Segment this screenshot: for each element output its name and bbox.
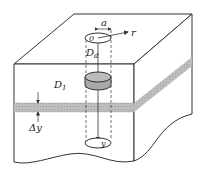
label-delta-y: Δy	[28, 122, 42, 133]
label-D1: D	[53, 79, 62, 90]
label-y: y	[100, 139, 106, 148]
label-a: a	[101, 17, 107, 28]
aquitard-layer-front	[14, 103, 134, 112]
gray-cylinder-top	[85, 72, 111, 82]
label-D1-sub: 1	[62, 84, 66, 92]
block-front-face	[14, 64, 134, 163]
bottom-well-ellipse	[85, 138, 111, 148]
aquifer-block-diagram: a r 0 D d D 1 Δy y	[0, 0, 203, 180]
label-origin: 0	[89, 34, 94, 43]
label-D: D	[85, 47, 94, 58]
label-D-sub: d	[94, 52, 99, 60]
